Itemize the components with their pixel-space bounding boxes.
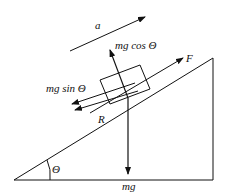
label-applied-force: F (186, 53, 193, 64)
label-weight: mg (122, 181, 135, 192)
incline-diagram: a mg cos Θ F mg sin Θ R Θ mg (0, 0, 229, 193)
inclined-plane (14, 58, 213, 180)
label-normal-force: mg cos Θ (115, 40, 157, 51)
diagram-graphics (0, 0, 229, 193)
label-acceleration: a (95, 20, 101, 31)
label-parallel-component: mg sin Θ (46, 83, 86, 94)
block (100, 65, 150, 104)
label-angle: Θ (52, 164, 60, 175)
label-friction: R (98, 114, 105, 125)
